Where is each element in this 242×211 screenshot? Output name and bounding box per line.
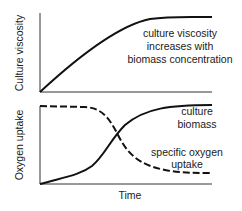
top-y-label: Culture viscosity (13, 14, 25, 91)
bottom-panel: Oxygen uptake culture biomass specific o… (13, 105, 223, 201)
viscosity-annotation-line3: biomass concentration (127, 53, 232, 65)
biomass-annotation-line2: biomass (177, 118, 216, 130)
bottom-y-label: Oxygen uptake (13, 110, 25, 181)
viscosity-annotation-line1: culture viscosity (143, 27, 218, 39)
figure: Culture viscosity culture viscosity incr… (0, 0, 242, 211)
oxygen-annotation-line1: specific oxygen (151, 146, 223, 158)
biomass-annotation-line1: culture (181, 105, 213, 117)
x-axis-label: Time (119, 189, 142, 201)
top-panel: Culture viscosity culture viscosity incr… (13, 13, 233, 92)
oxygen-annotation-line2: uptake (171, 158, 203, 170)
viscosity-annotation-line2: increases with (147, 40, 214, 52)
